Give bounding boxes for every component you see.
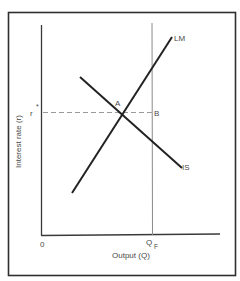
x-axis-label: Output (Q) [112, 251, 150, 260]
y-axis-label: Interest rate (r) [14, 115, 23, 168]
is-label: IS [182, 163, 190, 172]
point-b-label: B [154, 109, 159, 118]
qf-label: Q [146, 238, 152, 247]
r-star-superscript: * [36, 103, 39, 110]
origin-label: 0 [40, 240, 45, 249]
r-star-label: r [30, 109, 33, 118]
qf-subscript: F [154, 243, 158, 250]
qf-vertical-line [152, 23, 153, 235]
lm-label: LM [174, 34, 185, 43]
point-a-label: A [115, 99, 121, 108]
is-lm-diagram: LM IS A B r * 0 Q F Output (Q) Interest … [0, 0, 240, 281]
x-axis [41, 234, 220, 236]
is-curve [80, 77, 182, 168]
